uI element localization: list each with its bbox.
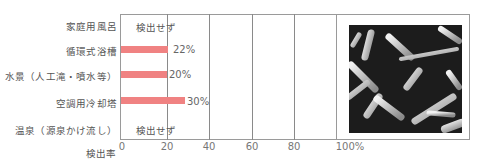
x-tick: 100%: [336, 141, 365, 152]
x-tick: 60: [246, 141, 259, 152]
bar-water-feature: [121, 71, 167, 78]
x-tick: 0: [119, 141, 125, 152]
value-label: 20%: [169, 69, 191, 80]
x-tick: 20: [161, 141, 174, 152]
value-label: 22%: [173, 44, 195, 55]
not-detected-label: 検出せず: [136, 123, 176, 137]
category-label: 家庭用風呂: [66, 19, 117, 33]
x-tick: 80: [288, 141, 301, 152]
gridline-80: [294, 14, 295, 140]
gridline-60: [252, 14, 253, 140]
not-detected-label: 検出せず: [136, 20, 176, 34]
bar-cooling-tower: [121, 97, 185, 104]
category-label: 水景（人工滝・噴水等）: [5, 69, 117, 83]
value-label: 30%: [187, 96, 209, 107]
x-axis-label: 検出率: [86, 146, 116, 160]
photo-frame: [336, 14, 470, 140]
category-label: 循環式浴槽: [66, 44, 117, 58]
bar-circulating-bath: [121, 46, 168, 53]
x-tick: 40: [203, 141, 216, 152]
category-label: 空調用冷却塔: [56, 96, 117, 110]
category-label: 温泉（源泉かけ流し）: [15, 123, 117, 137]
gridline-40: [209, 14, 210, 140]
bacteria-icon: [349, 25, 462, 133]
bacteria-micrograph-image: [349, 25, 462, 133]
